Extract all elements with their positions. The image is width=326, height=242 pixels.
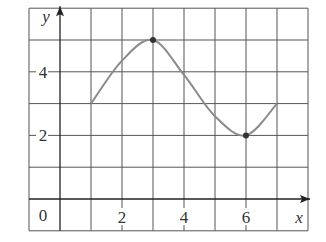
marked-point xyxy=(243,132,249,138)
x-tick-label: 6 xyxy=(242,208,251,227)
x-tick-label: 4 xyxy=(180,208,189,227)
origin-label: 0 xyxy=(39,206,48,225)
marked-points xyxy=(150,37,249,138)
function-graph: 246240xy xyxy=(0,0,326,242)
x-axis-label: x xyxy=(294,208,303,227)
grid-lines xyxy=(29,8,308,231)
marked-point xyxy=(150,37,156,43)
y-tick-label: 2 xyxy=(39,126,48,145)
y-tick-label: 4 xyxy=(39,63,48,82)
y-axis-label: y xyxy=(40,7,50,26)
x-tick-label: 2 xyxy=(118,208,127,227)
